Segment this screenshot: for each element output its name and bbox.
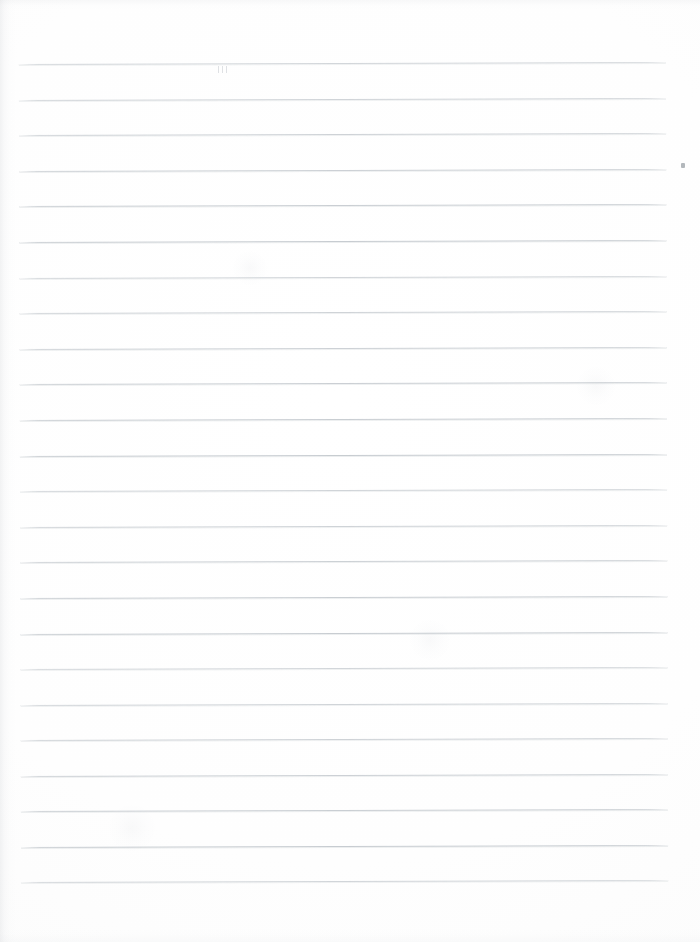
paper-smudge bbox=[109, 805, 155, 851]
tick-mark bbox=[222, 66, 223, 73]
paper-surface bbox=[0, 0, 700, 942]
scanned-page bbox=[0, 0, 700, 942]
tick-mark bbox=[218, 66, 219, 73]
tick-mark bbox=[226, 66, 227, 73]
paper-smudge bbox=[577, 367, 615, 405]
paper-smudge bbox=[410, 620, 450, 660]
paper-smudge bbox=[233, 251, 267, 285]
faint-tick-marks bbox=[218, 66, 227, 73]
scan-speck-artifact bbox=[681, 163, 685, 168]
